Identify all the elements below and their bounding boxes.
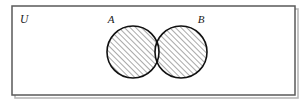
venn-diagram-canvas: U A B — [0, 0, 307, 109]
venn-diagram-figure: U A B — [0, 0, 307, 109]
set-a-label: A — [107, 13, 115, 25]
set-b-label: B — [198, 13, 205, 25]
universe-label: U — [20, 13, 29, 25]
region-b-only-shading — [100, 18, 220, 88]
